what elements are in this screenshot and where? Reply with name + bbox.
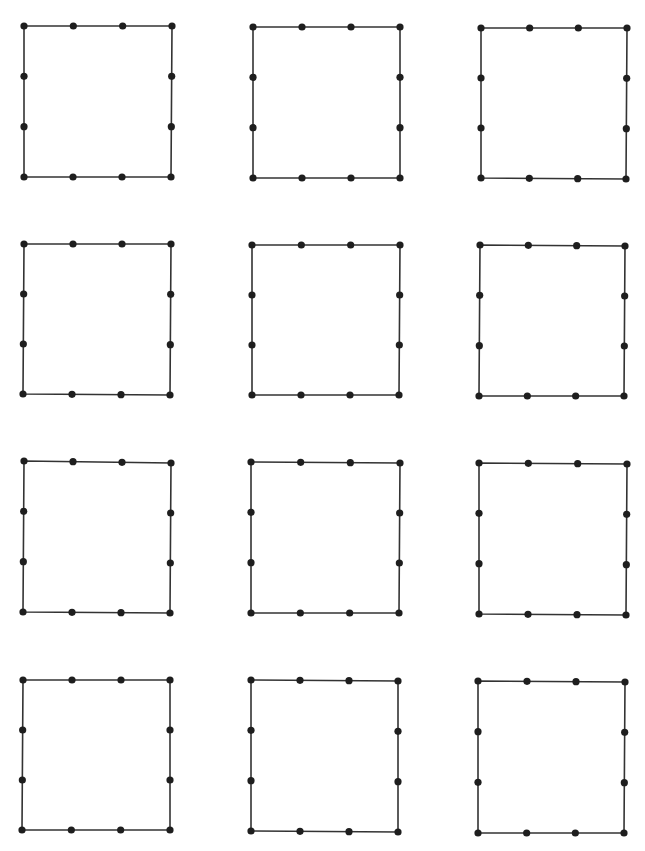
dot-point: [247, 509, 254, 516]
dot-point: [621, 342, 628, 349]
dot-square-8: [247, 458, 403, 616]
dot-point: [623, 561, 630, 568]
dot-point: [396, 341, 403, 348]
dot-point: [19, 726, 26, 733]
dot-point: [248, 291, 255, 298]
dot-point: [168, 73, 175, 80]
dot-point: [475, 459, 482, 466]
dot-point: [247, 676, 254, 683]
dot-point: [526, 24, 533, 31]
dot-point: [395, 609, 402, 616]
dot-point: [298, 241, 305, 248]
dot-point: [394, 728, 401, 735]
dot-point: [474, 728, 481, 735]
dot-point: [477, 74, 484, 81]
dot-point: [622, 175, 629, 182]
dot-point: [621, 729, 628, 736]
dot-point: [118, 459, 125, 466]
dot-point: [623, 511, 630, 518]
square-outline: [22, 680, 170, 830]
dot-point: [19, 776, 26, 783]
dot-point: [167, 341, 174, 348]
dot-point: [248, 241, 255, 248]
dot-point: [18, 826, 25, 833]
dot-point: [19, 608, 26, 615]
dot-point: [396, 23, 403, 30]
dot-point: [524, 611, 531, 618]
square-outline: [253, 27, 400, 178]
dot-point: [475, 392, 482, 399]
dot-point: [476, 342, 483, 349]
dot-point: [396, 241, 403, 248]
dot-point: [573, 611, 580, 618]
dot-point: [20, 173, 27, 180]
dot-point: [347, 241, 354, 248]
dot-point: [247, 559, 254, 566]
dot-point: [477, 174, 484, 181]
square-outline: [252, 245, 400, 395]
dot-point: [166, 609, 173, 616]
dot-point: [166, 391, 173, 398]
dot-point: [20, 340, 27, 347]
dot-point: [572, 678, 579, 685]
square-outline: [23, 461, 171, 613]
dot-point: [297, 609, 304, 616]
dot-point: [396, 509, 403, 516]
dot-square-grid: [0, 0, 645, 851]
dot-point: [572, 392, 579, 399]
dot-point: [523, 829, 530, 836]
dot-point: [68, 609, 75, 616]
dot-point: [68, 391, 75, 398]
dot-point: [70, 22, 77, 29]
dot-point: [345, 828, 352, 835]
dot-point: [475, 560, 482, 567]
dot-point: [623, 24, 630, 31]
dot-point: [346, 609, 353, 616]
square-outline: [251, 462, 400, 613]
dot-square-12: [474, 677, 628, 836]
dot-point: [297, 459, 304, 466]
dot-point: [167, 509, 174, 516]
dot-point: [573, 242, 580, 249]
dot-point: [477, 24, 484, 31]
dot-square-2: [249, 23, 403, 181]
dot-point: [524, 392, 531, 399]
dot-point: [346, 391, 353, 398]
dot-point: [396, 124, 403, 131]
dot-point: [167, 173, 174, 180]
dot-point: [296, 828, 303, 835]
dot-point: [621, 779, 628, 786]
dot-point: [623, 125, 630, 132]
dot-point: [20, 558, 27, 565]
dot-point: [525, 460, 532, 467]
dot-point: [167, 559, 174, 566]
dot-square-3: [477, 24, 630, 182]
dot-point: [247, 777, 254, 784]
dot-point: [20, 123, 27, 130]
dot-point: [69, 458, 76, 465]
dot-point: [574, 460, 581, 467]
dot-point: [475, 510, 482, 517]
dot-point: [474, 677, 481, 684]
dot-point: [167, 459, 174, 466]
dot-point: [347, 459, 354, 466]
dot-point: [477, 124, 484, 131]
dot-point: [117, 676, 124, 683]
dot-point: [166, 826, 173, 833]
dot-point: [20, 290, 27, 297]
square-outline: [479, 463, 627, 615]
square-outline: [23, 244, 171, 395]
dot-point: [249, 23, 256, 30]
dot-point: [475, 610, 482, 617]
dot-point: [574, 175, 581, 182]
dot-point: [525, 242, 532, 249]
dot-point: [68, 826, 75, 833]
dot-point: [621, 292, 628, 299]
dot-square-11: [247, 676, 401, 835]
dot-point: [118, 240, 125, 247]
dot-point: [249, 124, 256, 131]
dot-point: [476, 292, 483, 299]
dot-point: [476, 241, 483, 248]
dot-square-10: [18, 676, 173, 833]
dot-point: [247, 458, 254, 465]
